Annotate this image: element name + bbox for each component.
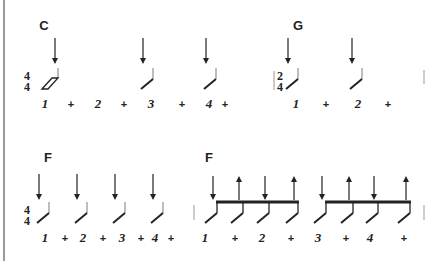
arrowhead-icon xyxy=(150,194,156,200)
and-count: + xyxy=(232,232,238,244)
beat-count: 1 xyxy=(42,96,49,111)
and-count: + xyxy=(385,98,391,110)
beat-count: 3 xyxy=(147,96,155,111)
slash-notehead-icon xyxy=(350,79,362,89)
arrowhead-icon xyxy=(236,176,242,182)
slash-notehead-icon xyxy=(141,79,153,89)
and-count: + xyxy=(323,98,329,110)
arrowhead-icon xyxy=(262,194,268,200)
beat-count: 3 xyxy=(314,230,322,245)
and-count: + xyxy=(68,98,74,110)
arrowhead-icon xyxy=(210,194,216,200)
beat-count: 3 xyxy=(118,230,126,245)
and-count: + xyxy=(138,232,144,244)
beat-count: 2 xyxy=(79,230,87,245)
and-count: + xyxy=(100,232,106,244)
arrowhead-icon xyxy=(403,176,409,182)
arrowhead-icon xyxy=(36,194,42,200)
beat-count: 1 xyxy=(202,230,209,245)
slash-notehead-icon xyxy=(341,213,353,223)
beat-count: 1 xyxy=(293,96,300,111)
slash-notehead-icon xyxy=(257,213,269,223)
slash-notehead-icon xyxy=(286,213,298,223)
arrowhead-icon xyxy=(371,194,377,200)
and-count: + xyxy=(401,232,407,244)
slash-notehead-icon xyxy=(398,213,410,223)
slash-notehead-icon xyxy=(151,213,163,223)
slash-notehead-icon xyxy=(366,213,378,223)
hollow-slash-notehead-icon xyxy=(42,78,58,89)
arrowhead-icon xyxy=(140,58,146,64)
slash-notehead-icon xyxy=(75,213,87,223)
slash-notehead-icon xyxy=(37,213,49,223)
beat-count: 4 xyxy=(366,230,374,245)
and-count: + xyxy=(168,232,174,244)
and-count: + xyxy=(222,98,228,110)
beat-count: 1 xyxy=(42,230,49,245)
beat-count: 4 xyxy=(205,96,213,111)
chord-symbol: G xyxy=(293,18,303,33)
and-count: + xyxy=(62,232,68,244)
and-count: + xyxy=(343,232,349,244)
and-count: + xyxy=(288,232,294,244)
arrowhead-icon xyxy=(52,58,58,64)
arrowhead-icon xyxy=(74,194,80,200)
and-count: + xyxy=(179,98,185,110)
beat-count: 2 xyxy=(354,96,362,111)
slash-notehead-icon xyxy=(204,79,216,89)
slash-notehead-icon xyxy=(113,213,125,223)
arrowhead-icon xyxy=(346,176,352,182)
beat-count: 2 xyxy=(94,96,102,111)
time-signature-bottom: 4 xyxy=(24,214,30,228)
beat-count: 4 xyxy=(151,230,159,245)
slash-notehead-icon xyxy=(286,79,298,89)
and-count: + xyxy=(121,98,127,110)
notation-page: 44CG241+2+3+4+1+2+44FF1+2+3+4+1+2+3+4+ S… xyxy=(0,0,439,261)
beat-count: 2 xyxy=(258,230,266,245)
arrowhead-icon xyxy=(319,194,325,200)
time-signature-bottom: 4 xyxy=(277,80,283,94)
arrowhead-icon xyxy=(291,176,297,182)
time-signature-bottom: 4 xyxy=(24,80,30,94)
slash-notehead-icon xyxy=(205,213,217,223)
chord-symbol: F xyxy=(44,150,52,165)
chord-symbol: C xyxy=(39,18,49,33)
rhythm-notation: 44CG241+2+3+4+1+2+44FF1+2+3+4+1+2+3+4+ xyxy=(0,0,439,261)
arrowhead-icon xyxy=(112,194,118,200)
slash-notehead-icon xyxy=(314,213,326,223)
arrowhead-icon xyxy=(203,58,209,64)
arrowhead-icon xyxy=(285,58,291,64)
chord-symbol: F xyxy=(205,150,213,165)
arrowhead-icon xyxy=(349,58,355,64)
slash-notehead-icon xyxy=(231,213,243,223)
